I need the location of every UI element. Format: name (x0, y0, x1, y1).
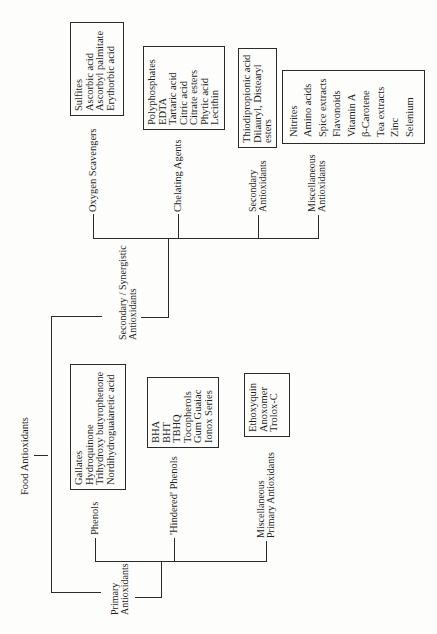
hindered-phenols-label: 'Hindered' Phenols (169, 456, 180, 535)
secondary-riser (168, 239, 169, 318)
trunk-to-secondary (51, 316, 102, 317)
misc-primary-box: Ethoxyquin Anoxomer Trolox-C (244, 373, 290, 437)
misc-ao-drop (318, 215, 319, 239)
secondary-label-line2: Antioxidants (128, 245, 138, 340)
box-item: β-Carotene (359, 77, 373, 137)
box-item: Tartaric acid (168, 51, 179, 125)
oxygen-scavengers-label: Oxygen Scavengers (88, 128, 99, 212)
chelating-agents-label: Chelating Agents (173, 139, 184, 212)
box-item: Tea extracts (374, 77, 388, 137)
box-item: Ascorbyl palmitate (95, 27, 106, 111)
box-item: Erythorbic acid (106, 27, 117, 111)
box-item: Trihydroxy butyrophenone (95, 369, 106, 485)
box-item: TBHQ (172, 382, 183, 443)
primary-label-line2: Antioxidants (120, 563, 130, 615)
chelating-drop (178, 214, 179, 239)
secondary-antioxidants-label: Secondary Antioxidants (248, 160, 268, 212)
chelating-agents-box: Polyphosphates EDTA Tartaric acid Citric… (143, 46, 225, 130)
primary-riser (161, 562, 162, 598)
box-item: Citrate esters (189, 51, 200, 125)
hindered-phenols-box: BHA BHT TBHQ Tocopherols Gum Guaiac Iono… (147, 377, 219, 448)
misc-ao-line2: Antioxidants (317, 154, 327, 212)
box-item: BHA (151, 382, 162, 443)
secondary-antioxidants-box: Thiodipropionic acid Dilauryl, Distearyl… (238, 48, 277, 148)
box-item: Amino acids (301, 77, 315, 137)
secondary-stub (141, 317, 169, 318)
box-item: Polyphosphates (147, 51, 158, 125)
secondary-ao-drop (258, 215, 259, 239)
misc-primary-drop (266, 541, 267, 562)
oxygen-drop (93, 214, 94, 239)
box-item: Flavonoids (330, 77, 344, 137)
primary-stub (135, 597, 162, 598)
secondary-ao-line2: Antioxidants (258, 160, 268, 212)
misc-antioxidants-label: Miscellaneous Antioxidants (307, 154, 327, 212)
box-item: Spice extracts (316, 77, 330, 137)
phenols-box: Gallates Hydroquinone Trihydroxy butyrop… (70, 364, 126, 490)
box-item: Gum Guaiac (193, 382, 204, 443)
main-trunk (51, 316, 52, 593)
box-item: Selenium (403, 77, 417, 137)
box-item: Zinc (388, 77, 402, 137)
hindered-drop (174, 538, 175, 562)
box-item: Vitamin A (345, 77, 359, 137)
secondary-synergistic-label: Secondary / Synergistic Antioxidants (118, 245, 138, 340)
misc-primary-label: Miscellaneous Primary Antioxidants (256, 452, 276, 538)
root-connector (34, 455, 48, 456)
box-item: Thiodipropionic acid (242, 53, 253, 143)
box-item: Ionox Series (204, 382, 215, 443)
phenols-drop (95, 538, 96, 562)
box-item: Sulfites (74, 27, 85, 111)
box-item: Nordihydroguaiaretic acid (106, 369, 117, 485)
box-item: Gallates (74, 369, 85, 485)
box-item: Lecithin (210, 51, 221, 125)
box-item: Trolox-C (269, 378, 280, 432)
box-item: esters (263, 53, 274, 143)
oxygen-scavengers-box: Sulfites Ascorbic acid Ascorbyl palmitat… (70, 22, 124, 116)
trunk-to-primary (51, 592, 101, 593)
misc-primary-line2: Primary Antioxidants (266, 452, 276, 538)
primary-antioxidants-label: Primary Antioxidants (110, 563, 130, 615)
root-label: Food Antioxidants (20, 417, 31, 495)
phenols-label: Phenols (90, 502, 101, 535)
secondary-bar (93, 238, 319, 239)
box-item: Ethoxyquin (248, 378, 259, 432)
box-item: Nitrites (287, 77, 301, 137)
misc-antioxidants-box: Nitrites Amino acids Spice extracts Flav… (282, 70, 425, 144)
